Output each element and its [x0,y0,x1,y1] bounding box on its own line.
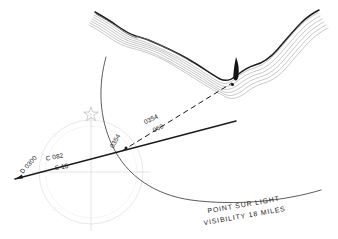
depth-contour-3 [92,19,322,89]
departure-time-label: D 0300 [18,154,38,175]
departure-arrowhead-icon [15,175,23,180]
navigation-plot-figure: D 0300 C 082 S 15 0354 0354 060 POINT SU… [0,0,338,239]
depth-contour-6 [89,25,328,98]
depth-contours [89,13,328,98]
bearing-time-label: 0354 [143,112,160,125]
depth-contour-2 [93,16,320,86]
speed-label: S 15 [54,162,69,172]
navigation-plot-canvas: D 0300 C 082 S 15 0354 0354 060 POINT SU… [0,0,338,239]
course-label: C 082 [45,151,64,161]
bearing-angle-label: 060 [151,122,164,133]
light-position-dot-icon [231,83,234,86]
course-line [15,121,236,179]
depth-contour-1 [94,13,318,83]
bearing-line [122,83,232,151]
light-symbol [231,57,239,86]
compass-rose [32,107,150,231]
visibility-arc [101,57,321,203]
fix-marker [125,147,128,150]
fix-time-label: 0354 [108,132,121,149]
light-flare-icon [233,57,239,80]
